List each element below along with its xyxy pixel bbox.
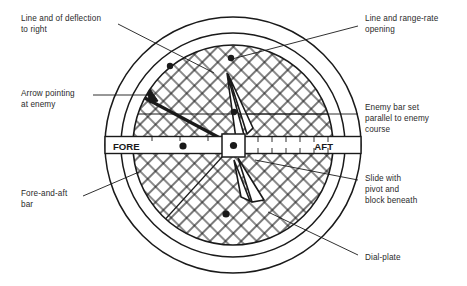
marker-lower — [222, 210, 229, 217]
marker-upper-right — [228, 55, 234, 61]
marker-fore-bar — [179, 142, 186, 149]
label-dial-plate: Dial-plate — [365, 252, 465, 263]
diagram-page: FORE AFT Line and of deflection to — [0, 0, 467, 286]
slide-block[interactable] — [222, 134, 245, 157]
label-line-and-range-rate-opening: Line and range-rate opening — [365, 13, 465, 35]
label-fore-and-aft-bar: Fore-and-aft bar — [21, 188, 131, 210]
dial-plate-diagram: FORE AFT — [0, 0, 467, 286]
label-slide-with-pivot: Slide with pivot and block beneath — [365, 173, 465, 207]
aft-label: AFT — [314, 141, 333, 152]
label-arrow-pointing-at-enemy: Arrow pointing at enemy — [21, 88, 131, 110]
fore-label: FORE — [113, 141, 140, 152]
marker-upper-left — [167, 63, 173, 69]
marker-mid-upper — [231, 109, 237, 115]
label-line-of-deflection: Line and of deflection to right — [21, 13, 141, 35]
label-enemy-bar-set-parallel: Enemy bar set parallel to enemy course — [365, 102, 465, 136]
pivot-dot — [230, 142, 237, 149]
